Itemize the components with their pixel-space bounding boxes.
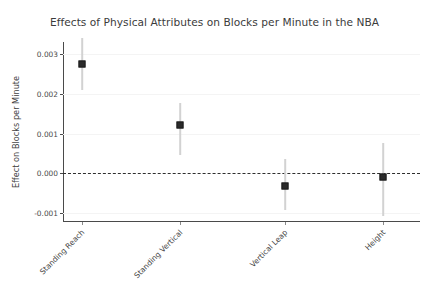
x-tick-label-standing-reach: Standing Reach — [38, 228, 86, 276]
chart-title: Effects of Physical Attributes on Blocks… — [0, 16, 429, 28]
gridline — [63, 213, 420, 214]
x-tick-label-height: Height — [363, 228, 387, 252]
gridline — [63, 94, 420, 95]
x-tick-mark — [285, 222, 286, 225]
x-tick-label-vertical-leap: Vertical Leap — [248, 228, 289, 269]
x-tick-mark — [180, 222, 181, 225]
y-tick-label-1: 0.002 — [30, 90, 58, 99]
figure-canvas: Effects of Physical Attributes on Blocks… — [0, 0, 429, 290]
data-point-standing-vertical[interactable] — [177, 122, 184, 129]
zero-reference-line — [63, 173, 420, 174]
error-bar-standing-vertical — [179, 103, 181, 155]
y-tick-label-3: 0.000 — [30, 169, 58, 178]
data-point-height[interactable] — [380, 174, 387, 181]
plot-area — [63, 42, 420, 221]
gridline — [63, 134, 420, 135]
y-tick-label-4: -0.001 — [26, 209, 58, 218]
x-tick-mark — [383, 222, 384, 225]
x-tick-mark — [82, 222, 83, 225]
x-tick-label-standing-vertical: Standing Vertical — [132, 228, 184, 280]
x-axis-spine — [63, 221, 420, 222]
data-point-standing-reach[interactable] — [79, 61, 86, 68]
data-point-vertical-leap[interactable] — [282, 183, 289, 190]
y-axis-label: Effect on Blocks per Minute — [9, 42, 23, 222]
y-tick-label-2: 0.001 — [30, 130, 58, 139]
gridline — [63, 54, 420, 55]
y-tick-label-0: 0.003 — [30, 50, 58, 59]
